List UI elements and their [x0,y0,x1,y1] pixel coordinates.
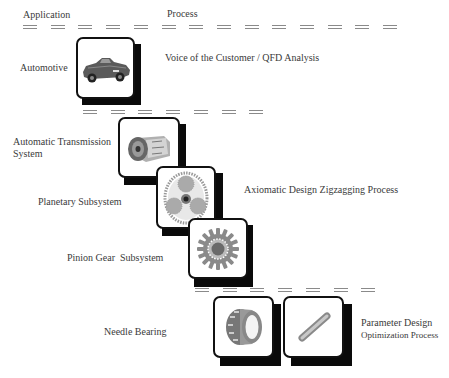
level-label-transmission-line1: Automatic Transmission [13,136,111,148]
application-column-header: Application [23,9,70,21]
divider-dash [328,25,342,29]
needle-bearing-icon [213,296,274,358]
process-label-axiomatic-design: Axiomatic Design Zigzagging Process [244,184,398,196]
divider-dash [278,288,292,292]
process-label-parameter-design: Parameter Design Optimization Process [361,317,438,341]
level-label-transmission: Automatic Transmission System [13,136,111,160]
card-automotive [76,37,141,105]
divider-dash [194,110,208,114]
divider-dash [300,25,314,29]
divider-dash [245,25,259,29]
divider-dash [272,25,286,29]
divider-dash [106,25,120,29]
divider-dash [217,25,231,29]
divider-dash [78,25,92,29]
divider-dash [166,110,180,114]
level-label-pinion: Pinion Gear Subsystem [67,252,163,264]
divider-dash [83,110,97,114]
process-label-qfd: Voice of the Customer / QFD Analysis [165,52,319,64]
divider-dash [195,288,209,292]
pinion-gear-icon [188,218,248,279]
divider-dash [162,25,176,29]
divider-dash [306,288,320,292]
divider-dash [51,25,65,29]
process-label-parameter-design-line1: Parameter Design [361,317,438,329]
card-pinion [188,218,253,287]
process-label-parameter-design-line2: Optimization Process [361,329,438,341]
car-icon [76,37,135,99]
level-label-needle-bearing: Needle Bearing [104,326,166,338]
divider-dash [138,110,152,114]
divider-dash [223,288,237,292]
divider-dash [23,25,37,29]
divider-dash [250,288,264,292]
level-label-automotive: Automotive [20,62,68,74]
divider-dash [134,25,148,29]
divider-dash [222,110,236,114]
divider-dash [355,25,369,29]
level-label-transmission-line2: System [13,148,111,160]
divider-dash [361,288,375,292]
needle-roller-icon [283,296,344,358]
divider-dash [383,25,397,29]
process-column-header: Process [167,8,198,20]
card-needle [283,296,352,366]
card-needle-bearing [213,296,281,366]
divider-dash [111,110,125,114]
divider-dash [249,110,263,114]
divider-dash [334,288,348,292]
divider-dash [189,25,203,29]
level-label-planetary: Planetary Subsystem [38,196,122,208]
